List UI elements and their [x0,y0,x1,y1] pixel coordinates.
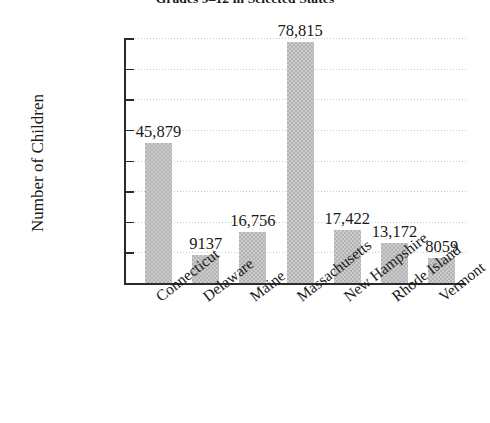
y-axis-tick [125,38,134,40]
bar-value-label: 16,756 [210,213,296,230]
bar-value-label: 45,879 [116,124,202,141]
bar-chart: Grades 9–12 in Selected States Number of… [0,0,490,423]
y-axis-tick [125,222,134,224]
y-axis-tick [125,161,134,163]
bar-value-label: 78,815 [257,23,343,40]
y-axis-tick [125,283,134,285]
chart-title: Grades 9–12 in Selected States [0,0,490,7]
y-axis-tick [125,69,134,71]
y-axis-tick [125,191,134,193]
bar [287,42,314,283]
y-axis-tick [125,99,134,101]
y-axis-tick [125,252,134,254]
y-axis-title: Number of Children [28,63,48,263]
bar [145,143,172,284]
